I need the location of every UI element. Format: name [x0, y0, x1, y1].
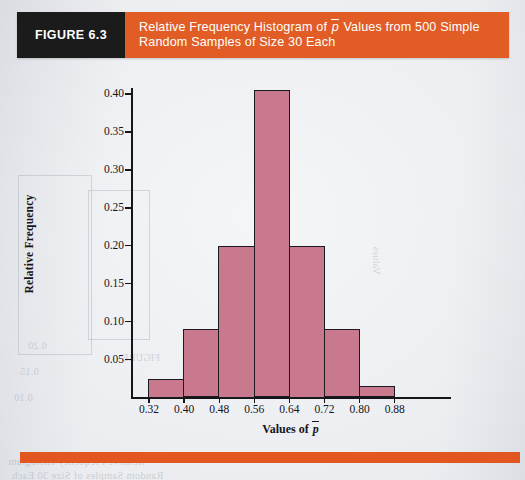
histogram-bar — [148, 379, 185, 398]
x-tick-label: 0.32 — [129, 403, 169, 415]
histogram-bar — [359, 386, 396, 397]
y-tick-mark — [125, 359, 132, 360]
x-tick-label: 0.80 — [340, 403, 380, 415]
y-tick-mark — [125, 283, 132, 284]
y-tick-mark — [125, 321, 132, 322]
x-tick-label: 0.72 — [305, 403, 345, 415]
histogram-bar — [254, 90, 291, 397]
histogram-bar — [324, 329, 361, 397]
y-tick-label: 0.20 — [90, 239, 124, 251]
figure-banner: FIGURE 6.3 Relative Frequency Histogram … — [17, 12, 509, 58]
x-axis-title: Values of p — [131, 422, 451, 437]
figure-caption-text: Relative Frequency Histogram of p Values… — [139, 20, 480, 51]
y-tick-mark — [125, 131, 132, 132]
y-tick-label: 0.25 — [90, 201, 124, 213]
bottom-orange-rule — [20, 452, 520, 463]
caption-line1-post: Values from 500 Simple — [340, 20, 480, 34]
y-tick-label: 0.05 — [90, 353, 124, 365]
caption-line2: Random Samples of Size 30 Each — [139, 35, 335, 49]
x-tick-label: 0.48 — [199, 403, 239, 415]
p-bar-symbol-caption: p — [331, 20, 340, 34]
p-bar-symbol-axis: p — [312, 422, 320, 436]
y-tick-label: 0.10 — [90, 315, 124, 327]
figure-number-box: FIGURE 6.3 — [17, 12, 125, 58]
caption-line1-pre: Relative Frequency Histogram of — [139, 20, 331, 34]
figure-page: FIGURE 0.20 0.15 0.10 Values Relative Fr… — [0, 0, 525, 480]
figure-caption-box: Relative Frequency Histogram of p Values… — [125, 12, 509, 58]
x-tick-label: 0.64 — [269, 403, 309, 415]
y-tick-mark — [125, 169, 132, 170]
x-tick-label: 0.56 — [234, 403, 274, 415]
histogram-bar — [183, 329, 220, 397]
ghost-text-7: Random Samples of Size 30 Each — [12, 470, 164, 480]
x-tick-label: 0.40 — [164, 403, 204, 415]
y-axis-line — [131, 88, 133, 399]
histogram-bar — [218, 246, 255, 398]
y-tick-mark — [125, 245, 132, 246]
figure-number-label: FIGURE 6.3 — [35, 28, 107, 42]
y-tick-label: 0.15 — [90, 277, 124, 289]
y-tick-mark — [125, 207, 132, 208]
y-tick-label: 0.30 — [90, 163, 124, 175]
y-tick-label: 0.35 — [90, 125, 124, 137]
x-tick-label: 0.88 — [375, 403, 415, 415]
y-tick-mark — [125, 93, 132, 94]
y-axis-title: Relative Frequency — [23, 174, 35, 314]
y-tick-label: 0.40 — [90, 87, 124, 99]
histogram-bar — [289, 246, 326, 398]
x-axis-title-prefix: Values of — [262, 422, 312, 436]
